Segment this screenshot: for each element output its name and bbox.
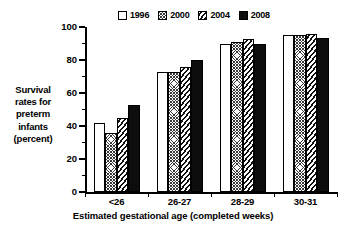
y-tick-label: 20 [66, 154, 77, 164]
bar-group [85, 27, 148, 192]
y-tick-label: 40 [66, 121, 77, 131]
y-axis-title-line-1: Survival [2, 84, 64, 96]
bar-30-31-2000 [294, 35, 306, 192]
bar-28-29-2004 [243, 39, 255, 192]
y-axis-title-line-5: (percent) [2, 133, 64, 145]
y-axis-title: Survival rates for preterm infants (perc… [2, 84, 64, 145]
bar-26-27-2004 [180, 67, 192, 192]
bar-lt26-2000 [105, 133, 117, 192]
bar-28-29-2000 [231, 42, 243, 192]
legend-label-2004: 2004 [210, 11, 229, 20]
legend-label-2008: 2008 [251, 11, 270, 20]
legend-label-1996: 1996 [130, 11, 149, 20]
x-tick-label: 30-31 [274, 197, 337, 207]
bar-lt26-1996 [94, 123, 106, 192]
legend-label-2000: 2000 [170, 11, 189, 20]
y-tick-label: 60 [66, 88, 77, 98]
bar-28-29-1996 [220, 44, 232, 193]
bar-group [148, 27, 211, 192]
legend-item-1996: 1996 [118, 11, 149, 20]
bar-lt26-2004 [117, 118, 129, 192]
y-tick-label: 0 [72, 187, 77, 197]
legend-swatch-2008-icon [239, 11, 248, 20]
legend-swatch-1996-icon [118, 11, 127, 20]
x-axis-tick [337, 192, 338, 197]
x-tick-label: <26 [85, 197, 148, 207]
y-axis-title-line-2: rates for [2, 96, 64, 108]
x-axis-title: Estimated gestational age (completed wee… [0, 210, 346, 221]
bar-group [274, 27, 337, 192]
bar-group [211, 27, 274, 192]
x-axis-tick-labels: <2626-2728-2930-31 [85, 197, 337, 207]
bar-lt26-2008 [128, 105, 140, 192]
y-tick-label: 80 [66, 55, 77, 65]
bar-28-29-2008 [254, 44, 266, 193]
bar-30-31-2008 [317, 38, 329, 192]
legend-item-2008: 2008 [239, 11, 270, 20]
bar-30-31-2004 [306, 34, 318, 192]
bar-26-27-2008 [191, 60, 203, 192]
legend-swatch-2004-icon [198, 11, 207, 20]
legend-item-2004: 2004 [198, 11, 229, 20]
x-tick-label: 28-29 [211, 197, 274, 207]
y-tick-label: 100 [61, 22, 77, 32]
plot-area: 020406080100 [85, 27, 337, 192]
legend-swatch-2000-icon [158, 11, 167, 20]
y-axis-title-line-4: infants [2, 121, 64, 133]
bar-groups [85, 27, 337, 192]
x-tick-label: 26-27 [148, 197, 211, 207]
legend-item-2000: 2000 [158, 11, 189, 20]
bar-26-27-2000 [168, 72, 180, 192]
bar-30-31-1996 [283, 35, 295, 192]
bar-26-27-1996 [157, 72, 169, 192]
y-axis-title-line-3: preterm [2, 108, 64, 120]
chart-legend: 1996 2000 2004 2008 [118, 11, 270, 20]
survival-rates-bar-chart: 1996 2000 2004 2008 Survival rates for p… [0, 0, 346, 226]
